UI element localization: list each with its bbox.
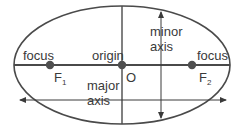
focus-2-point <box>188 61 196 69</box>
f2-subscript: 2 <box>207 78 212 87</box>
minor-axis-label-line2: axis <box>150 39 174 54</box>
f1-subscript: 1 <box>62 78 67 87</box>
focus-left-label: focus <box>23 48 55 63</box>
f1-main: F <box>54 70 62 85</box>
origin-label: origin <box>92 48 124 63</box>
origin-point-label: O <box>126 70 136 85</box>
f2-main: F <box>199 70 207 85</box>
focus-right-label: focus <box>197 48 229 63</box>
f1-label: F1 <box>54 70 67 87</box>
ellipse-diagram: focus F1 origin O minor axis focus F2 ma… <box>0 0 241 132</box>
f2-label: F2 <box>199 70 212 87</box>
major-axis-label-line2: axis <box>87 93 111 108</box>
major-axis-label-line1: major <box>87 78 120 93</box>
minor-axis-label-line1: minor <box>150 24 183 39</box>
